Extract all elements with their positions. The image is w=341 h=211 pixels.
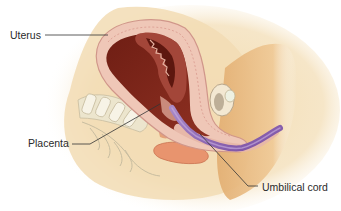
anatomy-illustration bbox=[0, 0, 341, 211]
placenta-label: Placenta bbox=[28, 137, 69, 149]
umbilical-cord-label: Umbilical cord bbox=[262, 181, 328, 193]
uterus-label: Uterus bbox=[10, 29, 41, 41]
